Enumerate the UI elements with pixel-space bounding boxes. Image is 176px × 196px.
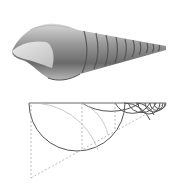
spiral-construction-diagram [0, 95, 176, 196]
seashell-illustration [0, 0, 176, 100]
semicircle-construction [0, 95, 176, 196]
seashell-image [0, 0, 176, 100]
